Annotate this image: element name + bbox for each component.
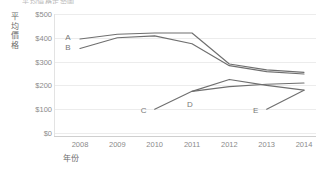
- series-label-a: A: [65, 32, 70, 41]
- y-tick-label: $100: [24, 105, 52, 114]
- x-tick-label: 2013: [258, 140, 275, 149]
- x-tick-label: 2014: [296, 140, 313, 149]
- x-axis-tick-labels: 2008200920102011201220132014: [54, 140, 316, 152]
- x-tick-label: 2009: [109, 140, 126, 149]
- y-tick-label: $500: [24, 10, 52, 19]
- series-label-d: D: [187, 100, 193, 109]
- series-line-d: [192, 83, 304, 91]
- series-label-b: B: [65, 42, 70, 51]
- plot-area: ABCDE: [54, 14, 316, 137]
- x-axis-title: 年份: [63, 152, 79, 163]
- series-label-c: C: [141, 106, 147, 115]
- y-tick-label: $300: [24, 57, 52, 66]
- y-tick-label: $0: [24, 129, 52, 138]
- x-tick-label: 2010: [146, 140, 163, 149]
- x-tick-label: 2012: [221, 140, 238, 149]
- series-line-e: [267, 90, 304, 109]
- series-lines: [54, 14, 316, 137]
- x-tick-label: 2011: [184, 140, 200, 149]
- series-line-b: [80, 36, 304, 74]
- y-tick-label: $200: [24, 81, 52, 90]
- x-tick-label: 2008: [72, 140, 89, 149]
- series-label-e: E: [253, 106, 258, 115]
- y-axis-tick-labels: $500$400$300$200$100$0: [0, 0, 52, 173]
- line-chart: 平均價格走勢圖 平均價格 $500$400$300$200$100$0 ABCD…: [0, 0, 323, 173]
- y-tick-label: $400: [24, 33, 52, 42]
